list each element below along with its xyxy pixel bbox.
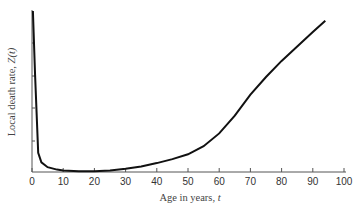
svg-text:0: 0 — [29, 176, 35, 187]
svg-text:60: 60 — [214, 176, 226, 187]
death-rate-curve — [33, 11, 325, 171]
svg-text:30: 30 — [120, 176, 132, 187]
svg-text:10: 10 — [58, 176, 70, 187]
svg-text:20: 20 — [89, 176, 101, 187]
svg-text:40: 40 — [151, 176, 163, 187]
svg-text:80: 80 — [276, 176, 288, 187]
svg-text:90: 90 — [307, 176, 319, 187]
svg-text:100: 100 — [336, 176, 353, 187]
axes — [32, 10, 346, 172]
y-axis-label: Local death rate, Z(t) — [6, 47, 18, 136]
x-axis-label: Age in years, t — [159, 192, 221, 203]
chart: 0102030405060708090100 Age in years, t L… — [0, 0, 361, 213]
svg-text:70: 70 — [245, 176, 257, 187]
x-tick-labels: 0102030405060708090100 — [29, 176, 353, 187]
svg-text:50: 50 — [182, 176, 194, 187]
